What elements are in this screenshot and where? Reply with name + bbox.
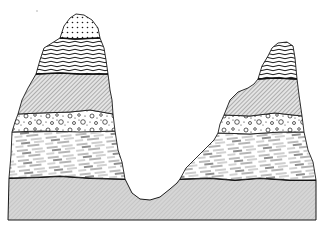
right-mesa xyxy=(180,42,316,180)
right-conglomerate-layer xyxy=(218,113,304,134)
right-streaky-layer xyxy=(180,132,316,180)
left-streaky-layer xyxy=(9,131,125,179)
base-layer xyxy=(8,176,316,220)
right-hatched-layer xyxy=(224,78,302,116)
left-wavy-layer xyxy=(36,38,108,74)
speck xyxy=(36,10,37,11)
left-hatched-layer xyxy=(18,73,113,114)
left-mesa xyxy=(9,14,125,179)
geologic-cross-section-diagram xyxy=(0,0,325,228)
right-wavy-layer xyxy=(258,42,297,79)
left-dotted-cap-layer xyxy=(60,14,100,39)
